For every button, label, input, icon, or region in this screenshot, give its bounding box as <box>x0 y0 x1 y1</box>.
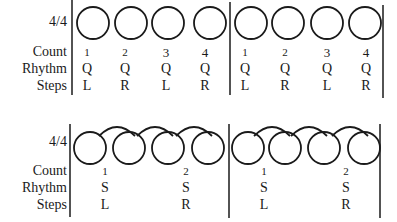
beat-step: L <box>323 78 332 93</box>
row-label-count: Count <box>33 44 67 59</box>
beat-circle <box>232 132 264 164</box>
beat-rhythm: Q <box>82 61 92 76</box>
beat-step: L <box>162 78 171 93</box>
beat-rhythm: Q <box>361 61 371 76</box>
beat-circles <box>77 7 381 39</box>
beat-step: R <box>120 78 130 93</box>
beat-circles <box>74 132 380 164</box>
beat-rhythm: Q <box>240 61 250 76</box>
beat-count: 2 <box>122 46 128 58</box>
beat-circle <box>235 7 267 39</box>
beat-circle <box>349 7 381 39</box>
beat-circle <box>194 7 226 39</box>
beat-step: L <box>101 197 110 212</box>
beat-circle <box>269 132 301 164</box>
beat-step: L <box>83 78 92 93</box>
beat-step: R <box>361 78 371 93</box>
beat-circle <box>192 132 224 164</box>
beat-count: 2 <box>343 165 349 177</box>
beat-step: R <box>341 197 351 212</box>
beat-circle <box>308 132 340 164</box>
beat-step: R <box>280 78 290 93</box>
beat-count: 1 <box>102 165 108 177</box>
beat-circle <box>74 132 106 164</box>
beat-count: 2 <box>183 165 189 177</box>
quick-rhythm-diagram: 4/4 Count Rhythm Steps 1 Q L 2 Q R 3 Q L… <box>22 0 383 98</box>
beat-rhythm: S <box>182 180 190 195</box>
beat-rhythm: S <box>101 180 109 195</box>
beat-circle <box>311 7 343 39</box>
beat-count: 1 <box>242 46 248 58</box>
beat-count: 1 <box>261 165 267 177</box>
beat-circle <box>113 132 145 164</box>
row-label-count: Count <box>33 163 67 178</box>
beat-rhythm: Q <box>280 61 290 76</box>
beat-step: R <box>181 197 191 212</box>
beat-circle <box>152 7 184 39</box>
row-label-steps: Steps <box>37 78 67 93</box>
time-signature: 4/4 <box>49 134 67 149</box>
row-label-rhythm: Rhythm <box>22 180 67 195</box>
row-label-rhythm: Rhythm <box>22 61 67 76</box>
time-signature: 4/4 <box>49 14 67 29</box>
beat-rhythm: Q <box>200 61 210 76</box>
beat-circle <box>272 7 304 39</box>
beat-circle <box>152 132 184 164</box>
beat-count: 2 <box>282 46 288 58</box>
row-label-steps: Steps <box>37 197 67 212</box>
beat-circle <box>348 132 380 164</box>
beat-step: L <box>241 78 250 93</box>
beat-rhythm: Q <box>161 61 171 76</box>
beat-rhythm: S <box>342 180 350 195</box>
beat-count: 4 <box>363 45 370 60</box>
beat-rhythm: Q <box>120 61 130 76</box>
beat-circle <box>77 7 109 39</box>
beat-count: 4 <box>202 45 209 60</box>
beat-count: 3 <box>163 45 170 60</box>
dance-rhythm-diagram: 4/4 Count Rhythm Steps 1 Q L 2 Q R 3 Q L… <box>0 0 397 222</box>
beat-count: 1 <box>84 46 90 58</box>
beat-rhythm: S <box>260 180 268 195</box>
beat-step: L <box>260 197 269 212</box>
beat-labels: 1 S L 2 S R 1 S L 2 S R <box>101 165 352 212</box>
beat-step: R <box>200 78 210 93</box>
beat-count: 3 <box>324 45 331 60</box>
beat-labels: 1 Q L 2 Q R 3 Q L 4 Q R 1 Q L 2 Q R 3 Q … <box>82 45 371 93</box>
beat-rhythm: Q <box>322 61 332 76</box>
beat-circle <box>115 7 147 39</box>
slow-rhythm-diagram: 4/4 Count Rhythm Steps 1 S L 2 <box>22 124 380 218</box>
